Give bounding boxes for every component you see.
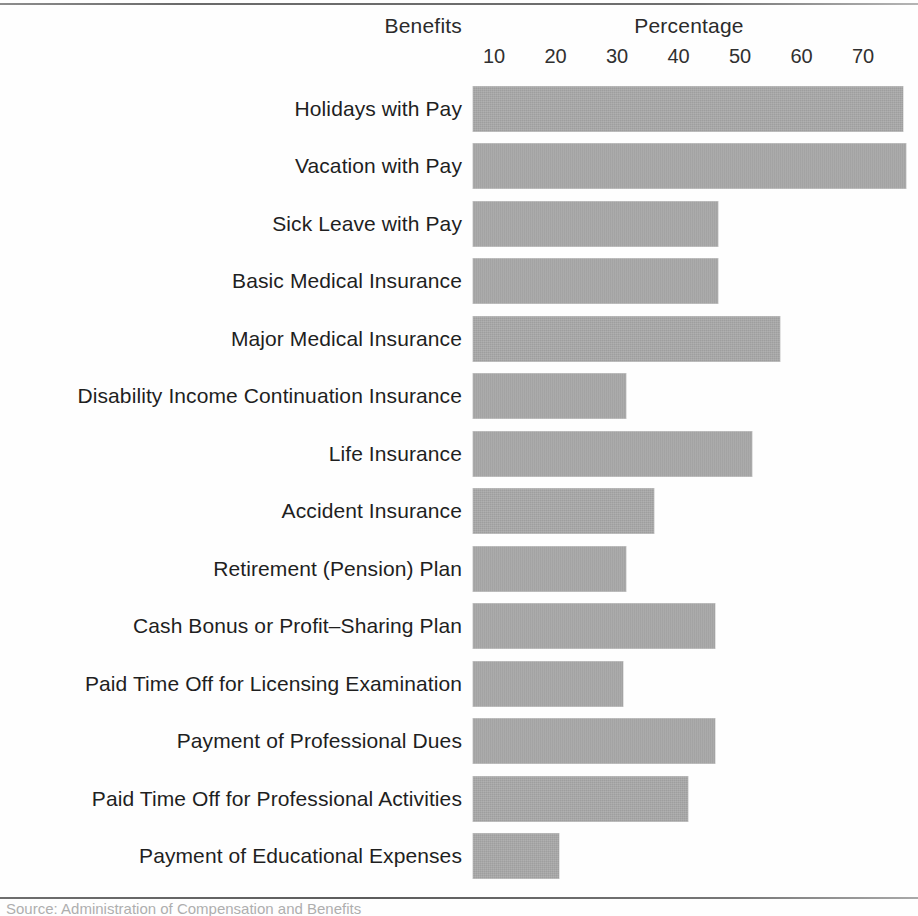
bar: [473, 604, 715, 649]
chart-row: Retirement (Pension) Plan: [0, 540, 918, 597]
category-label: Payment of Professional Dues: [177, 729, 462, 753]
bar: [473, 661, 623, 706]
category-label: Sick Leave with Pay: [272, 212, 462, 236]
bar: [473, 719, 715, 764]
bar: [473, 374, 626, 419]
bar: [473, 259, 718, 304]
figure-caption-clipped: Source: Administration of Compensation a…: [6, 902, 906, 916]
chart-row: Life Insurance: [0, 425, 918, 482]
chart-row: Payment of Professional Dues: [0, 713, 918, 770]
bar: [473, 546, 626, 591]
x-tick-50: 50: [729, 45, 751, 68]
top-divider-rule: [0, 3, 918, 5]
category-label: Basic Medical Insurance: [232, 269, 462, 293]
chart-row: Major Medical Insurance: [0, 310, 918, 367]
bar: [473, 834, 559, 879]
category-label: Holidays with Pay: [295, 97, 462, 121]
chart-row: Paid Time Off for Licensing Examination: [0, 655, 918, 712]
bar: [473, 201, 718, 246]
chart-row: Basic Medical Insurance: [0, 253, 918, 310]
percentage-axis-title: Percentage: [473, 14, 905, 38]
category-label: Paid Time Off for Professional Activitie…: [92, 787, 462, 811]
chart-row: Disability Income Continuation Insurance: [0, 368, 918, 425]
x-tick-30: 30: [606, 45, 628, 68]
category-label: Major Medical Insurance: [231, 327, 462, 351]
bar: [473, 776, 688, 821]
x-tick-40: 40: [667, 45, 689, 68]
category-label: Life Insurance: [329, 442, 462, 466]
bar: [473, 144, 906, 189]
chart-row: Vacation with Pay: [0, 138, 918, 195]
x-tick-70: 70: [852, 45, 874, 68]
category-label: Payment of Educational Expenses: [139, 844, 462, 868]
x-tick-20: 20: [544, 45, 566, 68]
chart-row: Paid Time Off for Professional Activitie…: [0, 770, 918, 827]
chart-row: Holidays with Pay: [0, 80, 918, 137]
bar: [473, 86, 903, 131]
figure-caption-text: Source: Administration of Compensation a…: [6, 902, 906, 916]
category-label: Disability Income Continuation Insurance: [77, 384, 462, 408]
x-axis-tick-labels: 10203040506070: [0, 45, 918, 73]
chart-row: Sick Leave with Pay: [0, 195, 918, 252]
category-label: Accident Insurance: [282, 499, 462, 523]
bar: [473, 316, 780, 361]
category-label: Paid Time Off for Licensing Examination: [85, 672, 462, 696]
bottom-divider-rule: [0, 897, 918, 899]
category-label: Retirement (Pension) Plan: [213, 557, 462, 581]
plot-area: Holidays with PayVacation with PaySick L…: [0, 80, 918, 890]
bar: [473, 489, 654, 534]
x-tick-60: 60: [790, 45, 812, 68]
bar: [473, 431, 752, 476]
chart-row: Cash Bonus or Profit–Sharing Plan: [0, 598, 918, 655]
bar-chart-figure: Benefits Percentage 10203040506070 Holid…: [0, 0, 918, 916]
chart-row: Payment of Educational Expenses: [0, 828, 918, 885]
benefits-column-header: Benefits: [0, 14, 462, 38]
category-label: Cash Bonus or Profit–Sharing Plan: [133, 614, 462, 638]
x-tick-10: 10: [483, 45, 505, 68]
category-label: Vacation with Pay: [295, 154, 462, 178]
chart-row: Accident Insurance: [0, 483, 918, 540]
